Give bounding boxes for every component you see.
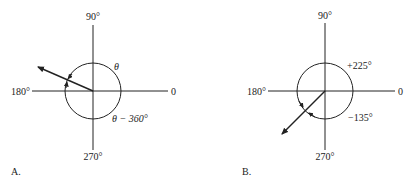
label-90: 90° [318, 10, 332, 21]
label-0: 0 [171, 86, 176, 97]
label-0: 0 [398, 86, 403, 97]
caption-b: B. [242, 166, 251, 177]
label-theta-minus-360: θ − 360° [112, 113, 148, 124]
panel-a: 90° 180° 0 270° θ θ − 360° A. [11, 11, 176, 177]
label-minus-135: −135° [348, 112, 373, 123]
panel-b: 90° 180° 0 270° +225° −135° B. [242, 10, 403, 177]
label-270: 270° [316, 151, 335, 162]
caption-a: A. [11, 166, 21, 177]
angle-diagram: 90° 180° 0 270° θ θ − 360° A. 90° 180° 0… [0, 0, 411, 184]
label-theta: θ [114, 61, 119, 72]
vector-arrow [282, 91, 325, 134]
label-90: 90° [86, 11, 100, 22]
label-plus-225: +225° [347, 60, 372, 71]
label-270: 270° [84, 151, 103, 162]
label-180: 180° [11, 86, 30, 97]
label-180: 180° [247, 86, 266, 97]
